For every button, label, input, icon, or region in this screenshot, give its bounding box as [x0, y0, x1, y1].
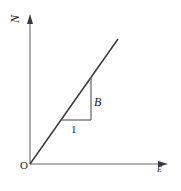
slope-rise-label: B — [94, 96, 101, 108]
origin-label: O — [20, 160, 28, 171]
y-axis-label: N — [9, 15, 21, 23]
slope-run-label: 1 — [71, 124, 77, 135]
x-axis-label: E — [157, 166, 162, 174]
